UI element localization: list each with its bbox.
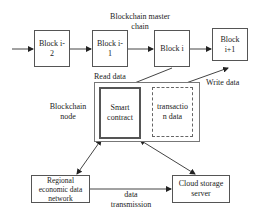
block-i-minus-2: Block i-2 <box>34 30 70 67</box>
data-transmission-line1: data <box>106 190 156 200</box>
block-i-minus-1: Block i-1 <box>92 30 128 67</box>
chain-title-line1: Blockchain master <box>100 12 180 22</box>
cloud-storage-server: Cloud storageserver <box>172 175 230 203</box>
block-label: 1 <box>97 49 123 59</box>
data-transmission-line2: transmission <box>106 200 156 208</box>
chain-title: Blockchain master chain <box>100 12 180 32</box>
read-data-label: Read data <box>94 72 126 82</box>
block-label: 2 <box>39 49 65 59</box>
transaction-line1: transactio <box>157 102 188 112</box>
transaction-data-box: transaction data <box>152 87 193 137</box>
smart-contract-line2: contract <box>107 113 133 123</box>
regional-line1: Regional <box>39 176 83 185</box>
data-transmission-label: data transmission <box>106 190 156 208</box>
smart-contract-box: Smartcontract <box>99 87 141 139</box>
block-label: Block i- <box>39 39 65 49</box>
block-label: Block <box>220 35 239 45</box>
regional-economic-data-network: Regionaleconomic datanetwork <box>31 175 90 203</box>
block-label: Block i- <box>97 39 123 49</box>
block-i-plus-1: Blocki+1 <box>212 28 248 61</box>
node-label-line2: node <box>44 112 92 122</box>
write-data-label: Write data <box>206 78 239 88</box>
blockchain-node-label: Blockchain node <box>44 102 92 122</box>
cloud-line2: server <box>179 189 224 199</box>
regional-line3: network <box>39 194 83 203</box>
smart-contract-line1: Smart <box>107 103 133 113</box>
block-i: Block i <box>154 30 190 67</box>
transaction-line2: n data <box>157 112 188 122</box>
cloud-line1: Cloud storage <box>179 179 224 189</box>
block-label: Block i <box>160 44 183 54</box>
block-label: i+1 <box>220 45 239 55</box>
regional-line2: economic data <box>39 185 83 194</box>
node-label-line1: Blockchain <box>44 102 92 112</box>
